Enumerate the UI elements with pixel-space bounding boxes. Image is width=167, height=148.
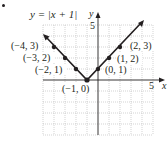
y-tick-label: 5	[90, 20, 95, 31]
point-label: (−2, 1)	[35, 64, 62, 76]
point-neg1-0	[84, 77, 89, 82]
point-2-3	[118, 45, 122, 49]
absolute-value-graph: y = |x + 1| y 5 5 x (−4, 3) (−3, 2) (−2,…	[0, 0, 167, 148]
point-0-1	[96, 67, 100, 71]
point-1-2	[107, 56, 111, 60]
y-axis-label: y	[88, 8, 94, 19]
point-neg2-1	[74, 67, 78, 71]
point-label: (0, 1)	[105, 64, 127, 76]
point-label: (1, 2)	[117, 53, 139, 65]
y-axis-arrow-icon	[96, 12, 101, 18]
x-axis-label: x	[161, 80, 167, 91]
point-neg4-3	[52, 45, 56, 49]
point-label: (−3, 2)	[23, 52, 50, 64]
point-label: (−1, 0)	[62, 83, 89, 95]
x-tick-label: 5	[149, 80, 154, 91]
equation-label: y = |x + 1|	[29, 8, 77, 20]
point-neg3-2	[63, 56, 67, 60]
point-label: (−4, 3)	[11, 40, 38, 52]
point-label: (2, 3)	[130, 40, 152, 52]
